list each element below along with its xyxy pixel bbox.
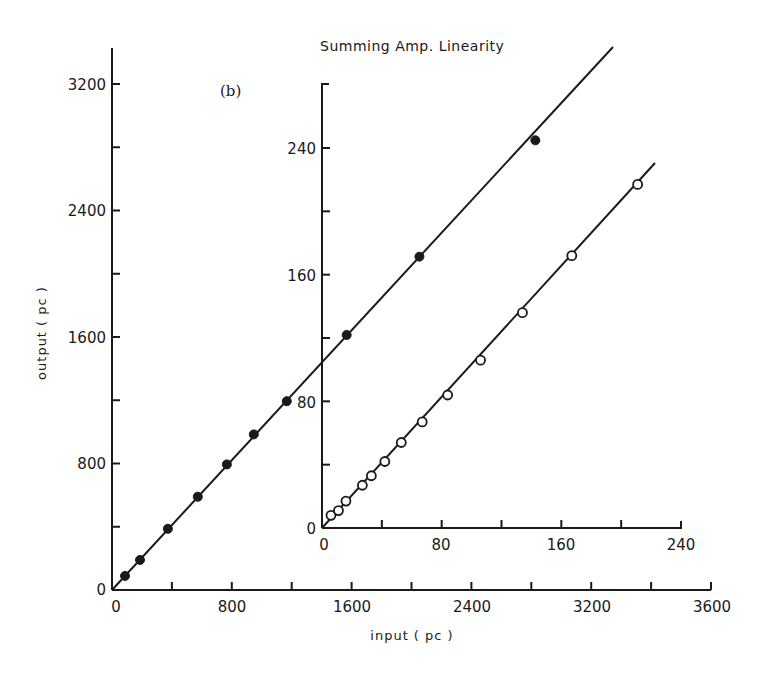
open-data-point	[567, 251, 576, 260]
x-tick-label: 3200	[573, 598, 611, 616]
open-data-point	[397, 438, 406, 447]
panel-label: (b)	[220, 82, 241, 100]
x-tick-label: 2400	[453, 598, 491, 616]
inset-y-tick-label: 240	[287, 140, 316, 158]
filled-data-point	[121, 571, 130, 580]
filled-data-point	[415, 252, 424, 261]
x-tick-label: 1600	[333, 598, 371, 616]
main-y-tick-labels: 0 800 1600 2400 3200	[68, 76, 106, 599]
linearity-chart: Summing Amp. Linearity (b) 0 800 1600 24…	[0, 0, 765, 677]
inset-x-ticks	[382, 520, 621, 528]
x-axis-title: input ( pc )	[370, 628, 453, 643]
inset-y-axis	[322, 84, 329, 528]
open-data-point	[476, 356, 485, 365]
main-x-tick-labels: 0 800 1600 2400 3200 3600	[111, 598, 731, 616]
inset-y-tick-label: 160	[287, 267, 316, 285]
y-tick-label: 2400	[68, 202, 106, 220]
inset-x-tick-label: 80	[431, 536, 450, 554]
x-tick-label: 3600	[693, 598, 731, 616]
x-tick-label: 0	[111, 598, 121, 616]
inset-x-tick-label: 240	[667, 536, 696, 554]
inset-x-tick-label: 0	[319, 536, 329, 554]
y-tick-label: 800	[77, 455, 106, 473]
filled-data-point	[136, 555, 145, 564]
filled-series-fit-line	[112, 47, 613, 590]
open-data-point	[418, 417, 427, 426]
main-x-ticks	[172, 582, 711, 590]
y-axis-title: output ( pc )	[34, 286, 49, 380]
open-data-point	[334, 506, 343, 515]
main-y-ticks	[112, 84, 120, 527]
inset-axes	[322, 84, 681, 528]
y-tick-label: 1600	[68, 329, 106, 347]
inset-x-tick-labels: 0 80 160 240	[319, 536, 695, 554]
open-data-point	[443, 391, 452, 400]
y-tick-label: 3200	[68, 76, 106, 94]
open-data-point	[633, 180, 642, 189]
open-data-point	[341, 497, 350, 506]
open-data-point	[518, 308, 527, 317]
inset-y-ticks	[322, 148, 330, 465]
inset-x-tick-label: 160	[547, 536, 576, 554]
inset-y-tick-label: 0	[306, 520, 316, 538]
filled-data-point	[193, 492, 202, 501]
filled-data-point	[531, 136, 540, 145]
inset-y-tick-labels: 0 80 160 240	[287, 140, 316, 538]
filled-data-point	[163, 524, 172, 533]
filled-data-point	[282, 397, 291, 406]
chart-title: Summing Amp. Linearity	[320, 38, 504, 54]
open-data-point	[367, 471, 376, 480]
filled-data-point	[249, 430, 258, 439]
x-tick-label: 800	[218, 598, 247, 616]
main-axes	[112, 48, 711, 590]
y-tick-label: 0	[96, 581, 106, 599]
inset-y-tick-label: 80	[297, 394, 316, 412]
open-data-point	[380, 457, 389, 466]
filled-data-point	[342, 330, 351, 339]
open-data-point	[358, 481, 367, 490]
filled-data-point	[222, 460, 231, 469]
